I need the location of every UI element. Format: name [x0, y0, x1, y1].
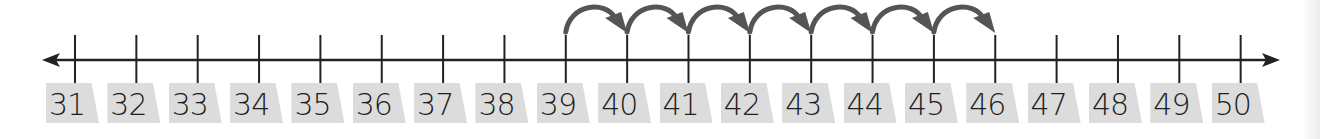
jump-arrow [934, 7, 995, 33]
jump-arrow [689, 7, 750, 33]
jump-arrow [566, 7, 627, 33]
tick-label: 35 [291, 83, 344, 123]
tick-label: 47 [1028, 83, 1081, 123]
tick-label: 31 [46, 83, 99, 123]
tick-label: 48 [1089, 83, 1142, 123]
tick-label: 34 [230, 83, 283, 123]
tick-label: 49 [1150, 83, 1203, 123]
tick-label: 32 [107, 83, 160, 123]
tick-label: 45 [905, 83, 958, 123]
jump-arrow [873, 7, 934, 33]
tick-label: 44 [844, 83, 897, 123]
tick-label: 46 [966, 83, 1019, 123]
arrowhead-icon [973, 12, 995, 33]
tick-label: 43 [782, 83, 835, 123]
number-line-diagram: 3132333435363738394041424344454647484950 [0, 0, 1320, 139]
tick-label: 39 [537, 83, 590, 123]
jump-arrow [811, 7, 872, 33]
tick-label: 42 [721, 83, 774, 123]
page-edge-shadow [1302, 0, 1320, 139]
tick-label: 38 [475, 83, 528, 123]
arrowhead-icon [728, 12, 750, 33]
tick-label: 33 [169, 83, 222, 123]
jump-arrow [627, 7, 688, 33]
tick-label: 36 [353, 83, 406, 123]
tick-label: 40 [598, 83, 651, 123]
arrowhead-icon [912, 12, 934, 33]
arrowhead-icon [851, 12, 873, 33]
arrowhead-icon [667, 12, 689, 33]
tick-label: 41 [660, 83, 713, 123]
jump-arrow [750, 7, 811, 33]
arrowhead-icon [789, 12, 811, 33]
arrowhead-icon [605, 12, 627, 33]
tick-label: 50 [1212, 83, 1265, 123]
tick-label: 37 [414, 83, 467, 123]
